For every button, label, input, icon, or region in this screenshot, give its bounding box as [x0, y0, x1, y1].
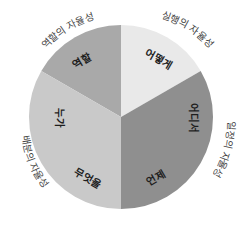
label-who: 누가	[54, 108, 66, 128]
label-where: 어디서	[188, 103, 200, 133]
outer-label-schedule-autonomy: 일정의 자율성	[211, 121, 237, 180]
autonomy-wheel-diagram: 역할 어떻게 어디서 언제 무엇을 누가 역할의 자율성 실행의 자율성 일정의…	[0, 0, 242, 234]
